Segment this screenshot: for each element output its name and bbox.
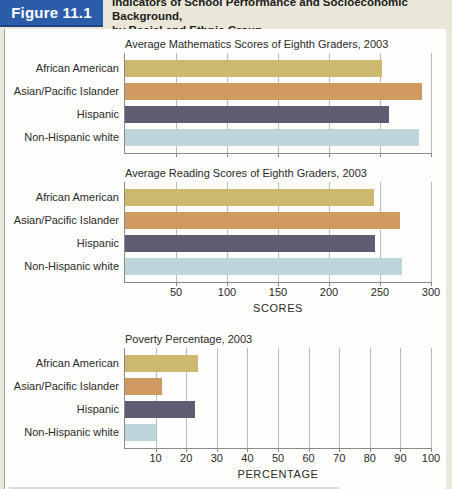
figure-header: Figure 11.1 Indicators of School Perform… — [0, 0, 452, 30]
bar-row — [125, 106, 431, 123]
reading-scores-bar-3 — [125, 258, 402, 275]
tick-label: 100 — [218, 286, 236, 298]
category-label: African American — [5, 189, 119, 206]
poverty-percentage-category-labels: African AmericanAsian/Pacific IslanderHi… — [5, 348, 124, 449]
category-label: African American — [5, 60, 119, 77]
category-label: Non-Hispanic white — [5, 258, 119, 275]
tick-label: 10 — [149, 452, 161, 464]
bar-row — [125, 235, 431, 252]
reading-scores-bar-0 — [125, 189, 374, 206]
gridline — [431, 348, 432, 448]
poverty-percentage-chart: Poverty Percentage, 2003African American… — [5, 333, 446, 480]
poverty-percentage-plot — [124, 348, 431, 449]
tick-label: 50 — [272, 452, 284, 464]
figure-title-line1: Indicators of School Performance and Soc… — [112, 0, 408, 22]
math-scores-bar-1 — [125, 83, 422, 100]
tick-label: 60 — [302, 452, 314, 464]
reading-scores-tick-labels: 50100150200250300 — [125, 286, 431, 300]
figure-body: Average Mathematics Scores of Eighth Gra… — [4, 29, 446, 489]
math-scores-bar-0 — [125, 60, 382, 77]
tick-label: 40 — [241, 452, 253, 464]
tick-label: 70 — [333, 452, 345, 464]
gridline — [431, 182, 432, 282]
category-label: Asian/Pacific Islander — [5, 83, 119, 100]
reading-scores-bar-1 — [125, 212, 400, 229]
tick-label: 100 — [422, 452, 440, 464]
reading-scores-area: African AmericanAsian/Pacific IslanderHi… — [5, 182, 446, 283]
category-label: Non-Hispanic white — [5, 129, 119, 146]
bar-row — [125, 83, 431, 100]
bar-row — [125, 378, 431, 395]
reading-scores-chart: Average Reading Scores of Eighth Graders… — [5, 167, 446, 314]
poverty-percentage-area: African AmericanAsian/Pacific IslanderHi… — [5, 348, 446, 449]
tick-label: 90 — [394, 452, 406, 464]
axis-tick — [380, 153, 381, 157]
category-label: African American — [5, 355, 119, 372]
category-label: Asian/Pacific Islander — [5, 212, 119, 229]
category-label: Non-Hispanic white — [5, 424, 119, 441]
tick-label: 30 — [211, 452, 223, 464]
reading-scores-category-labels: African AmericanAsian/Pacific IslanderHi… — [5, 182, 124, 283]
category-label: Hispanic — [5, 106, 119, 123]
poverty-percentage-bar-0 — [125, 355, 198, 372]
math-scores-bar-2 — [125, 106, 389, 123]
tick-label: 20 — [180, 452, 192, 464]
axis-tick — [431, 153, 432, 157]
tick-label: 150 — [269, 286, 287, 298]
math-scores-title: Average Mathematics Scores of Eighth Gra… — [125, 38, 446, 50]
bar-row — [125, 424, 431, 441]
axis-tick — [329, 153, 330, 157]
bar-row — [125, 355, 431, 372]
poverty-percentage-bar-2 — [125, 401, 195, 418]
figure-number-badge: Figure 11.1 — [0, 0, 103, 27]
tick-label: 200 — [320, 286, 338, 298]
math-scores-bar-3 — [125, 129, 419, 146]
math-scores-category-labels: African AmericanAsian/Pacific IslanderHi… — [5, 53, 124, 154]
tick-label: 250 — [371, 286, 389, 298]
axis-tick — [278, 153, 279, 157]
bar-row — [125, 189, 431, 206]
reading-scores-axis-label: SCORES — [125, 302, 431, 314]
reading-scores-bar-2 — [125, 235, 375, 252]
poverty-percentage-tick-labels: 102030405060708090100 — [125, 452, 431, 466]
figure-page: Figure 11.1 Indicators of School Perform… — [0, 0, 452, 489]
bar-row — [125, 212, 431, 229]
poverty-percentage-axis-label: PERCENTAGE — [125, 468, 431, 480]
math-scores-plot — [124, 53, 431, 154]
charts-container: Average Mathematics Scores of Eighth Gra… — [5, 29, 446, 480]
poverty-percentage-title: Poverty Percentage, 2003 — [125, 333, 446, 345]
poverty-percentage-bar-3 — [125, 424, 156, 441]
reading-scores-title: Average Reading Scores of Eighth Graders… — [125, 167, 446, 179]
category-label: Hispanic — [5, 235, 119, 252]
tick-label: 50 — [170, 286, 182, 298]
reading-scores-plot — [124, 182, 431, 283]
bar-row — [125, 258, 431, 275]
axis-tick — [227, 153, 228, 157]
math-scores-area: African AmericanAsian/Pacific IslanderHi… — [5, 53, 446, 154]
bar-row — [125, 401, 431, 418]
axis-tick — [176, 153, 177, 157]
category-label: Hispanic — [5, 401, 119, 418]
tick-label: 300 — [422, 286, 440, 298]
bar-row — [125, 60, 431, 77]
category-label: Asian/Pacific Islander — [5, 378, 119, 395]
bar-row — [125, 129, 431, 146]
tick-label: 80 — [364, 452, 376, 464]
figure-title: Indicators of School Performance and Soc… — [112, 0, 452, 30]
poverty-percentage-bar-1 — [125, 378, 162, 395]
gridline — [431, 53, 432, 153]
math-scores-chart: Average Mathematics Scores of Eighth Gra… — [5, 29, 446, 154]
